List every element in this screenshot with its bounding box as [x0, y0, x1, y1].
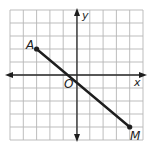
- y-axis-label: y: [81, 9, 89, 22]
- y-axis-bottom-arrow-icon: [74, 134, 80, 142]
- point-a: [34, 46, 39, 51]
- x-axis-left-arrow-icon: [5, 72, 13, 78]
- coordinate-plane: y x O A M: [0, 0, 151, 148]
- x-axis: [5, 72, 147, 78]
- y-axis-top-arrow-icon: [74, 8, 80, 16]
- point-m-label: M: [130, 129, 141, 143]
- x-axis-label: x: [133, 76, 141, 89]
- point-a-label: A: [25, 38, 34, 52]
- origin-label: O: [64, 77, 73, 91]
